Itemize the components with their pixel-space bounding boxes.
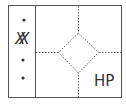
center-diamond <box>59 33 99 73</box>
sidebar-dot-2 <box>21 58 24 61</box>
sidebar-dot-1 <box>22 18 25 21</box>
sidebar-dot-3 <box>21 76 24 79</box>
sidebar-glyph-label: XX <box>15 30 24 48</box>
corner-label-hp: HP <box>94 72 114 90</box>
